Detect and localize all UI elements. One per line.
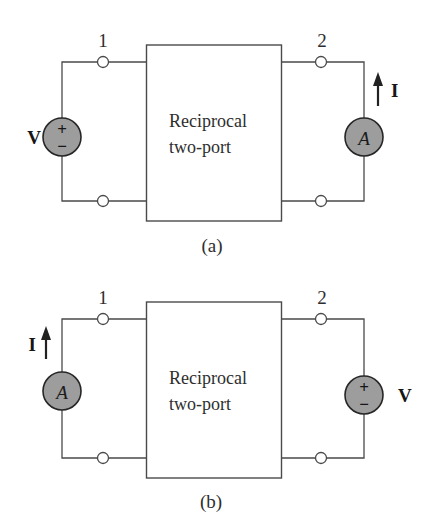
terminal-node-port2-top bbox=[316, 314, 327, 325]
wire-bottom-right bbox=[282, 156, 365, 201]
two-port-box-label-line1: Reciprocal bbox=[169, 368, 247, 388]
current-label: I bbox=[29, 334, 36, 355]
port2-label: 2 bbox=[317, 287, 327, 308]
voltage-source-icon: + − bbox=[345, 376, 383, 414]
terminal-node-port2-bottom bbox=[316, 453, 327, 464]
two-port-box bbox=[147, 302, 282, 478]
two-port-box-label-line1: Reciprocal bbox=[169, 111, 247, 131]
wire-top-left bbox=[62, 319, 147, 372]
figure-b-caption: (b) bbox=[200, 491, 222, 513]
figure-a-circuit-diagram: Reciprocal two-port 1 2 + − V A I (a) bbox=[0, 0, 421, 257]
figure-a: Reciprocal two-port 1 2 + − V A I (a) bbox=[0, 0, 421, 257]
port2-label: 2 bbox=[317, 30, 327, 51]
terminal-node-port2-top bbox=[316, 57, 327, 68]
figure-b-circuit-diagram: Reciprocal two-port 1 2 A I + − V (b) bbox=[0, 257, 421, 514]
figure-a-caption: (a) bbox=[201, 235, 222, 257]
wire-bottom-left bbox=[62, 410, 147, 458]
two-port-box-label-line2: two-port bbox=[169, 137, 231, 157]
terminal-node-port1-top bbox=[98, 314, 109, 325]
voltage-source-icon: + − bbox=[43, 118, 81, 156]
current-label: I bbox=[391, 80, 398, 101]
ammeter-icon: A bbox=[345, 118, 383, 156]
terminal-node-port1-bottom bbox=[98, 453, 109, 464]
current-arrow-head bbox=[41, 326, 51, 340]
current-arrow-icon bbox=[41, 326, 51, 359]
current-arrow-icon bbox=[373, 72, 383, 106]
port1-label: 1 bbox=[98, 30, 108, 51]
wire-bottom-right bbox=[282, 414, 365, 458]
wire-top-right bbox=[282, 319, 365, 376]
two-port-box-label-line2: two-port bbox=[169, 394, 231, 414]
minus-sign: − bbox=[57, 137, 67, 156]
terminal-node-port1-top bbox=[98, 57, 109, 68]
terminal-node-port1-bottom bbox=[98, 196, 109, 207]
port1-label: 1 bbox=[98, 287, 108, 308]
voltage-label: V bbox=[27, 127, 41, 148]
figure-b: Reciprocal two-port 1 2 A I + − V (b) bbox=[0, 257, 421, 514]
ammeter-icon: A bbox=[43, 372, 81, 410]
voltage-label: V bbox=[398, 385, 412, 406]
wire-bottom-left bbox=[62, 156, 147, 201]
wire-top-left bbox=[62, 62, 147, 118]
terminal-node-port2-bottom bbox=[316, 196, 327, 207]
wire-top-right bbox=[282, 62, 365, 118]
ammeter-letter: A bbox=[54, 382, 68, 403]
current-arrow-head bbox=[373, 72, 383, 86]
minus-sign: − bbox=[359, 395, 369, 414]
ammeter-letter: A bbox=[356, 128, 370, 149]
two-port-box bbox=[147, 45, 282, 221]
